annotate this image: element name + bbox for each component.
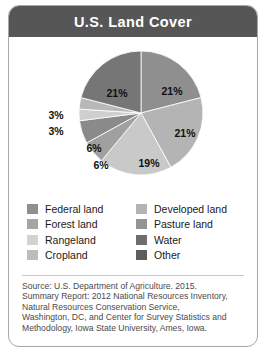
legend-item: Cropland — [27, 248, 130, 264]
pie-slice-label: 3% — [48, 109, 64, 121]
pie-slice-label: 21% — [161, 85, 183, 97]
legend-item-label: Other — [154, 249, 180, 261]
source-line: Source: U.S. Department of Agriculture. … — [22, 281, 244, 291]
source-line: Washington, DC, and Center for Survey St… — [22, 312, 244, 322]
legend-item-label: Pasture land — [154, 218, 213, 230]
legend-item: Rangeland — [27, 232, 130, 248]
legend-item-label: Cropland — [45, 249, 88, 261]
legend-item: Pasture land — [136, 217, 239, 233]
pie-slice-label: 3% — [48, 125, 64, 137]
legend-item-label: Developed land — [154, 203, 227, 215]
source-note: Source: U.S. Department of Agriculture. … — [9, 275, 257, 333]
source-line: Summary Report: 2012 National Resources … — [22, 291, 244, 301]
legend-swatch-icon — [136, 235, 147, 245]
page-title: U.S. Land Cover — [74, 14, 192, 30]
legend-swatch-icon — [136, 219, 147, 229]
pie-slice-label: 6% — [93, 159, 109, 171]
legend-swatch-icon — [27, 235, 38, 245]
legend-swatch-icon — [27, 204, 38, 214]
legend-swatch-icon — [27, 250, 38, 260]
legend-item: Federal land — [27, 201, 130, 217]
legend-swatch-icon — [136, 250, 147, 260]
pie-slice-label: 21% — [174, 127, 196, 139]
land-cover-card: U.S. Land Cover 21%21%19%6%6%3%3%21% Fed… — [8, 5, 258, 347]
pie-chart-area: 21%21%19%6%6%3%3%21% — [9, 37, 257, 197]
legend-swatch-icon — [136, 204, 147, 214]
legend-swatch-icon — [27, 219, 38, 229]
source-lines: Source: U.S. Department of Agriculture. … — [22, 281, 244, 333]
card-title-bar: U.S. Land Cover — [9, 6, 257, 37]
pie-slice-label: 21% — [106, 87, 128, 99]
legend-item-label: Federal land — [45, 203, 103, 215]
chart-legend: Federal landDeveloped landForest landPas… — [9, 201, 257, 263]
legend-item: Developed land — [136, 201, 239, 217]
source-line: Natural Resources Conservation Service, — [22, 302, 244, 312]
legend-item-label: Forest land — [45, 218, 98, 230]
legend-item: Water — [136, 232, 239, 248]
legend-item-label: Rangeland — [45, 234, 96, 246]
pie-slice-label: 6% — [86, 142, 102, 154]
legend-item: Other — [136, 248, 239, 264]
legend-item-label: Water — [154, 234, 182, 246]
pie-chart-svg: 21%21%19%6%6%3%3%21% — [9, 37, 258, 197]
source-divider — [22, 275, 244, 276]
source-line: Methodology, Iowa State University, Ames… — [22, 323, 244, 333]
pie-slice-label: 19% — [138, 157, 160, 169]
legend-item: Forest land — [27, 217, 130, 233]
